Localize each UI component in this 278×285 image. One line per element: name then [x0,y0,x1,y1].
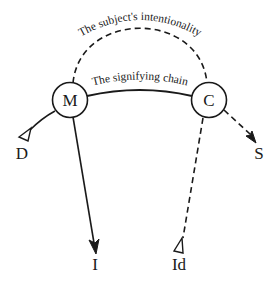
edge-m-i [73,117,94,243]
endpoint-s-label: S [254,144,263,163]
node-m: M [53,83,88,118]
signifying-chain-arc [87,90,192,96]
signifying-chain-label: The signifying chain [91,69,190,87]
open-triangle-icon [174,238,183,253]
node-c-label: C [203,91,214,110]
node-m-label: M [62,91,77,110]
intentionality-label: The subject's intentionality [76,10,204,39]
endpoint-id-label: Id [172,255,187,274]
endpoint-i-label: I [92,255,98,274]
edge-m-d [30,111,55,130]
node-c: C [192,83,227,118]
edge-c-id [183,118,203,238]
endpoint-d-label: D [16,144,28,163]
open-triangle-icon [19,128,31,141]
diagram-canvas: The subject's intentionality The signify… [0,0,278,285]
arrowhead-icon [246,131,256,143]
edge-c-s [224,110,250,134]
